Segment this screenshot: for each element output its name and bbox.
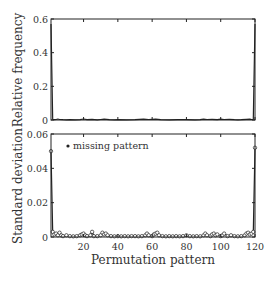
bottom-series: [49, 146, 256, 238]
chart-canvas: 00.20.40.6 Relative frequency 00.020.040…: [0, 0, 272, 281]
data-point-marker: [90, 230, 93, 233]
data-point-marker: [222, 232, 225, 235]
y-tick-label: 0.04: [27, 163, 48, 174]
bottom-panel: 00.020.040.0620406080100120 missing patt…: [11, 128, 264, 267]
data-point-marker: [198, 235, 201, 238]
top-panel: 00.20.40.6 Relative frequency: [11, 13, 255, 128]
data-point-marker: [157, 234, 160, 237]
data-point-marker: [106, 234, 109, 237]
x-tick-label: 40: [112, 241, 124, 252]
data-point-marker: [72, 235, 75, 238]
data-point-marker: [65, 234, 68, 237]
y-tick-label: 0.2: [33, 81, 48, 92]
data-point-marker: [147, 234, 150, 237]
data-point-marker: [178, 235, 181, 238]
data-point-marker: [205, 234, 208, 237]
data-point-marker: [164, 235, 167, 238]
top-ticks: 00.20.40.6: [33, 14, 255, 126]
data-point-marker: [216, 233, 219, 236]
y-tick-label: 0: [42, 115, 48, 126]
top-series: [51, 24, 255, 120]
data-point-marker: [171, 235, 174, 238]
series-line: [51, 24, 255, 120]
data-point-marker: [252, 230, 255, 233]
x-tick-label: 60: [146, 241, 158, 252]
y-tick-label: 0: [42, 232, 48, 243]
bottom-y-axis-title: Standard deviation: [11, 128, 25, 244]
y-tick-label: 0.06: [27, 129, 48, 140]
top-axes-frame: [51, 19, 255, 120]
y-tick-label: 0.4: [33, 47, 48, 58]
data-point-marker: [137, 235, 140, 238]
x-axis-title: Permutation pattern: [91, 253, 215, 267]
x-tick-label: 100: [212, 241, 230, 252]
data-point-marker: [236, 235, 239, 238]
data-point-marker: [120, 235, 123, 238]
data-point-marker: [229, 234, 232, 237]
figure: 00.20.40.6 Relative frequency 00.020.040…: [0, 0, 272, 281]
x-tick-label: 20: [78, 241, 90, 252]
data-point-marker: [113, 235, 116, 238]
data-point-marker: [192, 235, 195, 238]
y-tick-label: 0.6: [33, 14, 48, 25]
x-tick-label: 120: [246, 241, 264, 252]
data-point-marker: [126, 235, 129, 238]
legend-dot-icon: [66, 144, 69, 147]
legend: missing pattern: [66, 140, 148, 151]
series-line: [51, 148, 255, 237]
legend-missing-pattern: missing pattern: [73, 140, 149, 151]
top-y-axis-title: Relative frequency: [11, 13, 25, 128]
x-tick-label: 80: [180, 241, 192, 252]
y-tick-label: 0.02: [27, 197, 48, 208]
data-point-marker: [89, 234, 92, 237]
